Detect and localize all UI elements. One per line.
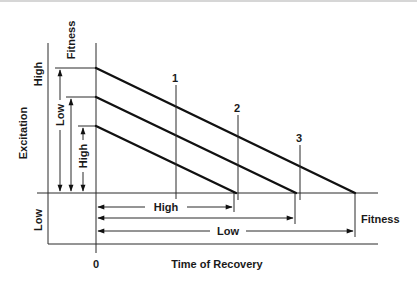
vertical-low-label: Low: [54, 104, 66, 126]
y-low-label: Low: [32, 209, 44, 231]
fitness-right-label: Fitness: [361, 213, 400, 225]
recovery-line-1: [96, 68, 355, 193]
marker-label-1: 1: [172, 72, 178, 84]
recovery-line-2: [96, 97, 296, 193]
origin-label: 0: [93, 258, 99, 270]
y-high-label: High: [32, 62, 44, 87]
marker-label-2: 2: [234, 102, 240, 114]
recovery-line-3: [96, 126, 236, 193]
y-axis-title: Excitation: [17, 106, 29, 159]
vertical-high-label: High: [77, 144, 89, 169]
marker-label-3: 3: [296, 132, 302, 144]
horizontal-low-label: Low: [217, 225, 239, 237]
x-axis-title: Time of Recovery: [171, 258, 263, 270]
fitness-top-label: Fitness: [65, 21, 77, 60]
horizontal-high-label: High: [154, 201, 179, 213]
excitation-recovery-diagram: Excitation High Low Fitness Low High 1 2…: [0, 0, 417, 286]
